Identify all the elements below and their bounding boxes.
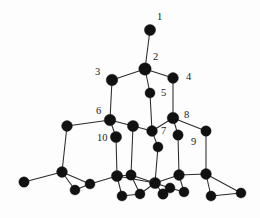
atom-node-10[interactable] <box>110 131 121 142</box>
atom-label-8: 8 <box>184 110 189 121</box>
atom-node[interactable] <box>174 170 185 181</box>
atom-node[interactable] <box>236 188 246 198</box>
atom-node-9[interactable] <box>173 130 183 140</box>
atom-node[interactable] <box>149 177 160 188</box>
atom-node[interactable] <box>126 170 136 180</box>
atom-node[interactable] <box>70 185 80 195</box>
atom-node[interactable] <box>201 126 211 136</box>
atom-node[interactable] <box>117 191 127 201</box>
atom-label-5: 5 <box>161 88 166 99</box>
atom-label-9: 9 <box>191 137 196 148</box>
lattice-figure: 12345678910 <box>0 0 260 218</box>
bond-line <box>178 135 179 175</box>
atom-node[interactable] <box>127 120 138 131</box>
atom-label-3: 3 <box>95 67 100 78</box>
bond-line <box>131 126 133 175</box>
atom-node[interactable] <box>153 142 163 152</box>
atom-label-6: 6 <box>96 106 101 117</box>
bond-line <box>67 120 110 126</box>
atom-label-1: 1 <box>157 12 162 23</box>
atom-node-1[interactable] <box>144 24 155 35</box>
atom-node[interactable] <box>135 189 145 199</box>
bond-line <box>150 93 152 131</box>
atom-node[interactable] <box>206 191 216 201</box>
atom-node-6[interactable] <box>104 114 116 126</box>
atom-node[interactable] <box>62 121 73 132</box>
atom-node-5[interactable] <box>145 88 155 98</box>
lattice-svg <box>0 0 260 218</box>
atom-node-7[interactable] <box>147 126 158 137</box>
atom-node-3[interactable] <box>106 74 118 86</box>
atom-label-2: 2 <box>153 52 158 63</box>
atom-node[interactable] <box>179 187 189 197</box>
bond-line <box>206 174 241 193</box>
atom-node[interactable] <box>19 177 29 187</box>
atom-node[interactable] <box>165 183 175 193</box>
atom-node[interactable] <box>85 179 95 189</box>
atom-node-8[interactable] <box>167 112 179 124</box>
bond-line <box>62 126 67 172</box>
bond-line <box>24 172 62 182</box>
bond-line <box>116 137 117 176</box>
atom-node[interactable] <box>201 169 212 180</box>
atom-node[interactable] <box>57 167 68 178</box>
atom-node-2[interactable] <box>139 63 151 75</box>
atom-label-4: 4 <box>186 72 191 83</box>
atom-node[interactable] <box>111 170 122 181</box>
atom-label-10: 10 <box>97 133 108 144</box>
atom-label-7: 7 <box>161 126 166 137</box>
bond-line <box>110 80 112 120</box>
atom-node-4[interactable] <box>168 73 179 84</box>
